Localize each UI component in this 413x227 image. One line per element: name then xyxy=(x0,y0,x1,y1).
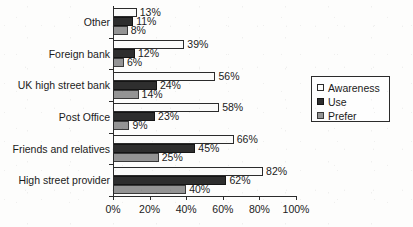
bar-row: 6% xyxy=(113,58,296,67)
x-axis-tick xyxy=(113,196,114,200)
legend-label: Awareness xyxy=(328,82,380,94)
bar-group-high-street-provider: 82%62%40% xyxy=(113,167,296,194)
category-label: Friends and relatives xyxy=(0,143,110,155)
bar-row: 56% xyxy=(113,72,296,81)
chart-legend: AwarenessUsePrefer xyxy=(311,76,390,122)
bar-row: 24% xyxy=(113,81,296,90)
category-label: UK high street bank xyxy=(0,79,110,91)
x-axis-tick-label: 80% xyxy=(249,203,270,215)
bar-row: 58% xyxy=(113,103,296,112)
category-label: Post Office xyxy=(0,111,110,123)
y-axis-tick xyxy=(109,133,113,134)
x-axis-tick-label: 40% xyxy=(176,203,197,215)
bar-group-friends-and-relatives: 66%45%25% xyxy=(113,135,296,162)
bar-group-foreign-bank: 39%12%6% xyxy=(113,40,296,67)
bar-prefer xyxy=(113,90,139,99)
x-axis-tick-label: 0% xyxy=(105,203,120,215)
bar-value-label: 25% xyxy=(162,151,183,163)
legend-label: Prefer xyxy=(328,110,357,122)
x-axis-tick xyxy=(150,196,151,200)
bar-use xyxy=(113,144,195,153)
plot-area: 13%11%8%39%12%6%56%24%14%58%23%9%66%45%2… xyxy=(113,6,296,196)
x-axis-tick xyxy=(186,196,187,200)
bar-value-label: 40% xyxy=(189,183,210,195)
x-axis-tick-label: 60% xyxy=(212,203,233,215)
bar-prefer xyxy=(113,58,124,67)
y-axis-tick xyxy=(109,38,113,39)
legend-item-prefer: Prefer xyxy=(317,109,389,122)
legend-swatch-icon xyxy=(317,98,324,105)
legend-item-use: Use xyxy=(317,95,389,108)
bar-row: 14% xyxy=(113,90,296,99)
legend-swatch-icon xyxy=(317,84,324,91)
y-axis-tick xyxy=(109,69,113,70)
bar-row: 45% xyxy=(113,144,296,153)
x-axis-tick xyxy=(259,196,260,200)
bar-value-label: 6% xyxy=(127,56,142,68)
x-axis-tick xyxy=(296,196,297,200)
x-axis-tick xyxy=(223,196,224,200)
bar-prefer xyxy=(113,121,129,130)
bar-group-uk-high-street-bank: 56%24%14% xyxy=(113,72,296,99)
y-axis-tick xyxy=(109,101,113,102)
x-axis-tick-label: 20% xyxy=(139,203,160,215)
y-axis-tick xyxy=(109,164,113,165)
legend-label: Use xyxy=(328,96,347,108)
bar-awareness xyxy=(113,8,137,17)
x-axis-tick-label: 100% xyxy=(283,203,310,215)
bar-prefer xyxy=(113,185,186,194)
bar-prefer xyxy=(113,153,159,162)
bar-value-label: 14% xyxy=(142,88,163,100)
legend-item-awareness: Awareness xyxy=(317,81,389,94)
legend-swatch-icon xyxy=(317,112,324,119)
category-label: High street provider xyxy=(0,174,110,186)
bar-value-label: 9% xyxy=(132,119,147,131)
bar-prefer xyxy=(113,26,128,35)
bar-row: 82% xyxy=(113,167,296,176)
bar-group-post-office: 58%23%9% xyxy=(113,103,296,130)
category-label: Foreign bank xyxy=(0,48,110,60)
bar-row: 25% xyxy=(113,153,296,162)
bar-value-label: 8% xyxy=(131,24,146,36)
bar-row: 40% xyxy=(113,185,296,194)
y-axis-line xyxy=(113,6,114,196)
x-axis-line xyxy=(113,196,297,197)
bar-group-other: 13%11%8% xyxy=(113,8,296,35)
bar-row: 8% xyxy=(113,26,296,35)
bar-chart: 13%11%8%39%12%6%56%24%14%58%23%9%66%45%2… xyxy=(0,0,413,227)
bar-row: 9% xyxy=(113,121,296,130)
category-label: Other xyxy=(0,16,110,28)
